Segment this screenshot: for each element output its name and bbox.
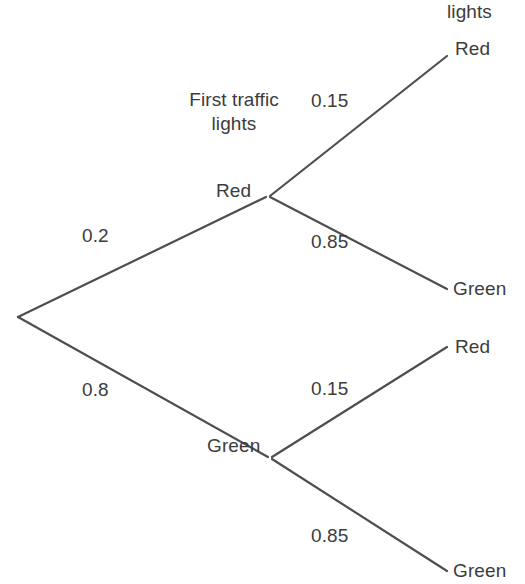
second-stage-header-label: lights xyxy=(447,1,492,22)
probability-label-red-red: 0.15 xyxy=(311,89,348,112)
branch-line-root-to-red xyxy=(18,197,266,317)
node-label-red-first: Red xyxy=(216,179,251,202)
node-label-red-red: Red xyxy=(455,37,490,60)
branch-line-green-to-green xyxy=(272,459,447,571)
node-label-red-green: Green xyxy=(453,277,506,300)
probability-label-root-red: 0.2 xyxy=(82,224,109,247)
node-label-green-green: Green xyxy=(453,559,506,582)
branch-line-green-to-red xyxy=(272,347,447,457)
node-label-green-first: Green xyxy=(207,434,260,457)
second-stage-header-partial: First traffic lights xyxy=(176,88,292,136)
branch-line-red-to-green xyxy=(270,197,447,289)
probability-label-green-red: 0.15 xyxy=(311,377,348,400)
probability-label-green-green: 0.85 xyxy=(311,524,348,547)
second-stage-header-text: First traffic xyxy=(189,89,279,110)
probability-label-root-green: 0.8 xyxy=(82,378,109,401)
probability-label-red-green: 0.85 xyxy=(311,230,348,253)
second-stage-header-text-line2: lights xyxy=(212,113,257,134)
second-stage-header: lights xyxy=(447,0,492,24)
branch-line-red-to-red xyxy=(270,56,447,196)
node-label-green-red: Red xyxy=(455,335,490,358)
